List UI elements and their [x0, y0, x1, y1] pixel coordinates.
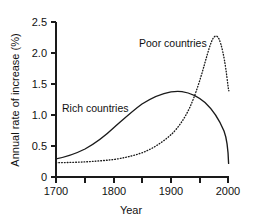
- y-tick-label-1.0: 1.0: [32, 109, 47, 121]
- poor-countries-label: Poor countries: [139, 37, 207, 49]
- y-tick-label-0.5: 0.5: [32, 140, 47, 152]
- x-axis-ticks: [56, 177, 228, 183]
- x-axis-tick-labels: 1700 1800 1900 2000: [44, 185, 240, 197]
- x-tick-label-1700: 1700: [44, 185, 68, 197]
- y-tick-label-2.0: 2.0: [32, 47, 47, 59]
- x-axis-title: Year: [120, 204, 143, 216]
- y-tick-label-1.5: 1.5: [32, 78, 47, 90]
- y-tick-label-2.5: 2.5: [32, 16, 47, 28]
- x-tick-label-1900: 1900: [159, 185, 183, 197]
- y-axis-ticks: [51, 22, 56, 177]
- chart-figure: 2.5 2.0 1.5 1.0 0.5 0 1700 1800 1900 200…: [0, 0, 261, 220]
- x-tick-label-2000: 2000: [216, 185, 240, 197]
- y-tick-label-0: 0: [41, 171, 47, 183]
- y-axis-title: Annual rate of increase (%): [9, 33, 21, 166]
- rich-countries-label: Rich countries: [62, 102, 129, 114]
- x-tick-label-1800: 1800: [102, 185, 126, 197]
- annual-rate-of-increase-line-chart: 2.5 2.0 1.5 1.0 0.5 0 1700 1800 1900 200…: [0, 0, 261, 220]
- poor-countries-curve: [56, 36, 229, 163]
- y-axis-tick-labels: 2.5 2.0 1.5 1.0 0.5 0: [32, 16, 47, 183]
